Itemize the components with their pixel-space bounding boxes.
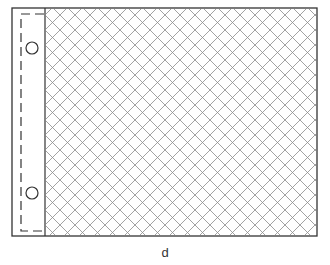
- punch-hole-bottom: [26, 187, 38, 199]
- punch-hole-top: [26, 42, 38, 54]
- figure-caption: d: [0, 245, 330, 260]
- binder-sheet-diagram: [0, 0, 330, 265]
- crosshatch-area: [46, 9, 316, 235]
